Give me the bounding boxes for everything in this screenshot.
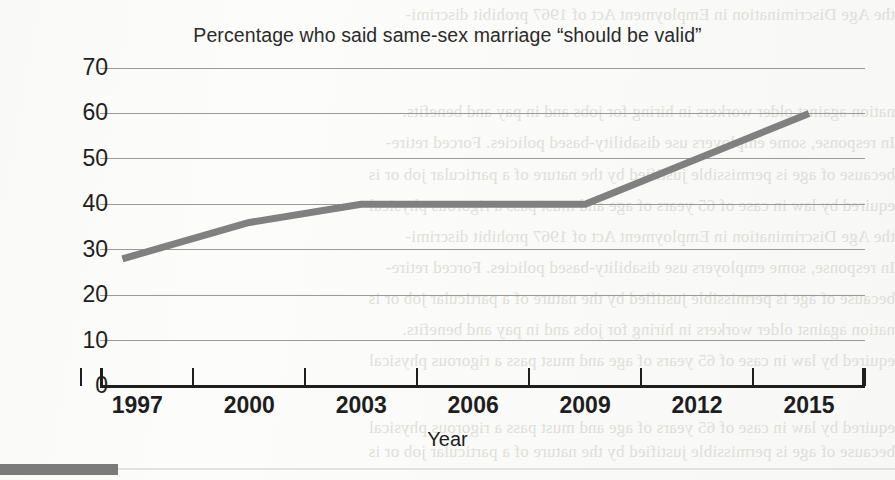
x-axis-tick-label: 2006	[418, 392, 528, 419]
x-axis-tick-label: 2003	[306, 392, 416, 419]
gridline	[100, 249, 865, 250]
y-axis-tick-label: 50	[44, 147, 108, 170]
x-axis-tick-label: 2009	[530, 392, 640, 419]
y-axis-tick-label: 20	[44, 283, 108, 306]
x-axis-tick-label: 2015	[754, 392, 864, 419]
x-axis-left-cap	[100, 368, 103, 388]
x-axis-tick	[864, 368, 866, 386]
y-axis-tick-label: 30	[44, 238, 108, 261]
gridline	[100, 204, 865, 205]
page-footer-bar	[0, 464, 118, 475]
x-axis-tick	[80, 368, 82, 386]
gridline	[100, 68, 865, 69]
x-axis-tick-label: 2000	[194, 392, 304, 419]
y-axis-tick-label: 40	[44, 192, 108, 215]
page-footer-rule	[118, 468, 895, 470]
page-background: the Age Discrimination in Employment Act…	[0, 0, 895, 480]
gridline	[100, 295, 865, 296]
y-axis-tick-label: 10	[44, 329, 108, 352]
x-axis-tick	[416, 368, 418, 386]
x-axis-line	[100, 385, 865, 388]
y-axis-tick-label: 70	[44, 56, 108, 79]
gridline	[100, 340, 865, 341]
data-line	[122, 113, 809, 258]
x-axis-tick-label: 1997	[82, 392, 192, 419]
x-axis-tick	[304, 368, 306, 386]
chart-title: Percentage who said same-sex marriage “s…	[0, 24, 895, 47]
y-axis-tick-label: 60	[44, 101, 108, 124]
x-axis-tick	[752, 368, 754, 386]
x-axis-tick	[640, 368, 642, 386]
gridline	[100, 158, 865, 159]
gridline	[100, 113, 865, 114]
x-axis-tick	[192, 368, 194, 386]
x-axis-tick-label: 2012	[642, 392, 752, 419]
x-axis-title: Year	[0, 428, 895, 451]
line-chart: Percentage who said same-sex marriage “s…	[0, 0, 895, 480]
x-axis-tick	[528, 368, 530, 386]
